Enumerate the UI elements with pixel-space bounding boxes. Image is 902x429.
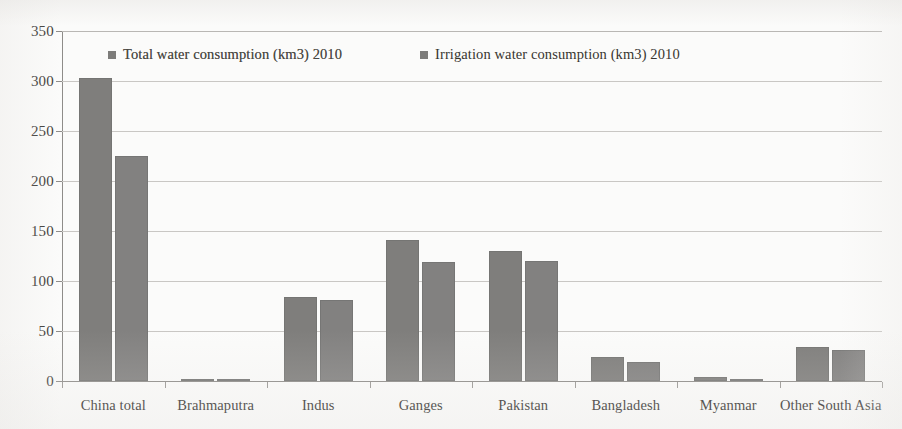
bar (79, 78, 112, 381)
x-tick-mark (780, 382, 781, 388)
legend-item-irrigation: Irrigation water consumption (km3) 2010 (420, 46, 680, 63)
square-marker-icon (420, 51, 428, 59)
bar (115, 156, 148, 381)
bar (320, 300, 353, 381)
legend-label-irrigation: Irrigation water consumption (km3) 2010 (435, 46, 680, 63)
y-tick-mark (56, 331, 62, 332)
y-tick-mark (56, 131, 62, 132)
x-tick-mark (472, 382, 473, 388)
bar (422, 262, 455, 381)
x-tick-mark (677, 382, 678, 388)
bar (386, 240, 419, 381)
x-tick-label: Bangladesh (591, 397, 660, 414)
y-tick-label: 200 (10, 174, 54, 189)
chart-legend: Total water consumption (km3) 2010 Irrig… (108, 46, 680, 63)
y-tick-mark (56, 231, 62, 232)
bar (730, 379, 763, 381)
y-tick-label: 0 (10, 374, 54, 389)
y-tick-label: 50 (10, 324, 54, 339)
bar (796, 347, 829, 381)
x-tick-label: China total (81, 397, 146, 414)
bar (284, 297, 317, 381)
square-marker-icon (108, 51, 116, 59)
legend-label-total: Total water consumption (km3) 2010 (123, 46, 342, 63)
x-tick-mark (575, 382, 576, 388)
x-tick-mark (165, 382, 166, 388)
x-tick-label: Ganges (399, 397, 443, 414)
y-tick-label: 150 (10, 224, 54, 239)
y-tick-label: 250 (10, 124, 54, 139)
y-tick-mark (56, 281, 62, 282)
y-tick-mark (56, 181, 62, 182)
y-tick-mark (56, 81, 62, 82)
x-tick-mark (267, 382, 268, 388)
bar (181, 379, 214, 381)
bar-group (62, 31, 165, 381)
bar-group (165, 31, 268, 381)
legend-item-total: Total water consumption (km3) 2010 (108, 46, 342, 63)
bar-group (267, 31, 370, 381)
bar-group (472, 31, 575, 381)
x-tick-label: Brahmaputra (177, 397, 254, 414)
x-tick-mark (882, 382, 883, 388)
plot-area: China totalBrahmaputraIndusGangesPakista… (62, 31, 882, 382)
x-tick-label: Indus (302, 397, 335, 414)
bar (591, 357, 624, 381)
y-tick-label: 300 (10, 74, 54, 89)
bar-chart: 050100150200250300350 China totalBrahmap… (0, 0, 902, 429)
bar (832, 350, 865, 381)
bar-group (575, 31, 678, 381)
y-tick-label: 100 (10, 274, 54, 289)
bar (627, 362, 660, 381)
bar-groups (62, 31, 882, 382)
x-tick-mark (370, 382, 371, 388)
bar-group (677, 31, 780, 381)
x-tick-mark (62, 382, 63, 388)
x-tick-label: Other South Asia (780, 397, 882, 414)
bar-group (370, 31, 473, 381)
bar (489, 251, 522, 381)
bar (217, 379, 250, 381)
y-tick-mark (56, 31, 62, 32)
bar (694, 377, 727, 381)
x-tick-label: Myanmar (700, 397, 757, 414)
y-tick-label: 350 (10, 24, 54, 39)
y-axis-labels: 050100150200250300350 (8, 31, 54, 382)
x-tick-label: Pakistan (498, 397, 548, 414)
bar (525, 261, 558, 381)
bar-group (780, 31, 883, 381)
